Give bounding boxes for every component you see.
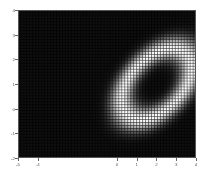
- axis-spine-bottom: [18, 157, 196, 158]
- axis-spine-left: [18, 10, 19, 158]
- y-tick-label: 4: [13, 8, 15, 13]
- y-tick-mark: [15, 59, 18, 60]
- x-tick-label: 1: [135, 162, 137, 167]
- x-tick-mark: [18, 158, 19, 161]
- y-tick-label: -2: [11, 156, 15, 161]
- y-tick-label: -1: [11, 131, 15, 136]
- x-tick-label: -5: [16, 162, 20, 167]
- x-tick-mark: [38, 158, 39, 161]
- x-tick-label: -4: [36, 162, 40, 167]
- x-tick-mark: [156, 158, 157, 161]
- y-tick-label: 0: [13, 106, 15, 111]
- y-tick-label: 3: [13, 32, 15, 37]
- x-tick-mark: [117, 158, 118, 161]
- x-tick-label: 3: [175, 162, 177, 167]
- x-tick-mark: [137, 158, 138, 161]
- figure-canvas: 43210-1-2 -5-401234: [0, 0, 207, 175]
- x-tick-mark: [196, 158, 197, 161]
- axis-spine-right: [195, 10, 196, 158]
- x-tick-label: 0: [116, 162, 118, 167]
- y-tick-mark: [15, 10, 18, 11]
- x-tick-label: 4: [195, 162, 197, 167]
- y-tick-mark: [15, 133, 18, 134]
- plot-area: [18, 10, 196, 158]
- x-tick-label: 2: [155, 162, 157, 167]
- y-tick-mark: [15, 109, 18, 110]
- y-tick-mark: [15, 35, 18, 36]
- heatmap-mesh: [18, 10, 196, 158]
- y-tick-mark: [15, 84, 18, 85]
- y-tick-label: 1: [13, 82, 15, 87]
- x-tick-mark: [176, 158, 177, 161]
- axis-spine-top: [18, 10, 196, 11]
- y-tick-label: 2: [13, 57, 15, 62]
